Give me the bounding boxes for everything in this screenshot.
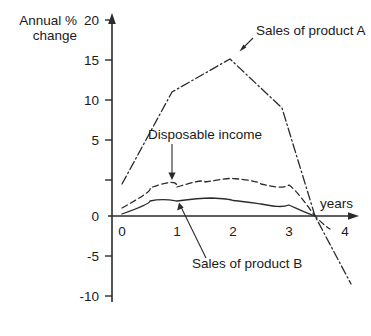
- y-tick-label-10: 10: [84, 93, 99, 108]
- annotation-sales-of-product-a: Sales of product A: [240, 23, 366, 52]
- y-tick-label-20: 20: [84, 13, 99, 28]
- annotation-label-disposable-income: Disposable income: [148, 127, 262, 142]
- y-tick-label-minus10: -10: [79, 289, 99, 304]
- y-axis-title-line1: Annual %: [19, 13, 77, 28]
- annotation-label-sales-of-product-b: Sales of product B: [192, 256, 302, 271]
- y-tick-label-15: 15: [84, 53, 99, 68]
- x-tick-label-1: 1: [173, 224, 181, 239]
- y-tick-labels: 20 15 10 5 0 -5 -10: [79, 13, 99, 304]
- series-line-disposable-income: [122, 178, 330, 229]
- annotation-label-sales-of-product-a: Sales of product A: [256, 23, 366, 38]
- annotation-sales-of-product-b: Sales of product B: [177, 203, 302, 272]
- y-tick-label-0: 0: [91, 209, 99, 224]
- x-tick-label-0: 0: [118, 224, 126, 239]
- y-axis-arrowhead: [108, 13, 116, 24]
- y-tick-marks: [105, 20, 112, 296]
- x-axis-arrowhead: [348, 212, 359, 220]
- y-tick-label-minus5: -5: [87, 249, 99, 264]
- annotation-disposable-income: Disposable income: [148, 127, 262, 180]
- x-tick-labels: 0 1 2 3 4: [118, 224, 349, 239]
- y-tick-label-5: 5: [91, 133, 99, 148]
- series-line-sales-of-product-a: [122, 59, 351, 284]
- x-tick-label-4: 4: [341, 224, 349, 239]
- x-tick-label-2: 2: [229, 224, 237, 239]
- y-axis-title-line2: change: [33, 28, 77, 43]
- x-axis-title: years: [320, 196, 353, 211]
- series-line-sales-of-product-b: [122, 198, 315, 216]
- annotation-arrowhead-disposable-income: [168, 173, 175, 181]
- line-chart-figure: 20 15 10 5 0 -5 -10 0 1 2 3 4 Annual % c…: [0, 0, 371, 336]
- annotation-leader-sales-of-product-b: [181, 207, 206, 258]
- x-tick-label-3: 3: [285, 224, 293, 239]
- axis-titles: Annual % change years: [19, 13, 353, 211]
